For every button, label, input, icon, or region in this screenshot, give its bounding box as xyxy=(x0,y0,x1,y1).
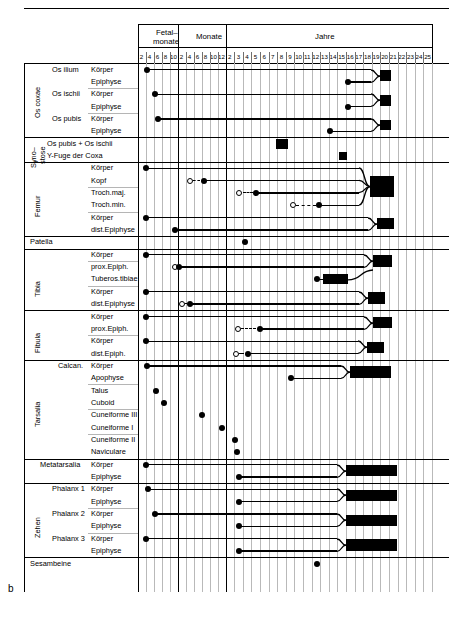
row-part-label: Troch.maj. xyxy=(91,189,126,196)
row-bone-label: Os pubis xyxy=(52,115,81,122)
synostosis-block xyxy=(380,120,390,130)
row-separator xyxy=(138,47,432,48)
grid-line xyxy=(138,24,139,63)
row-part-label: Cuboid xyxy=(91,399,114,406)
growth-line xyxy=(177,229,368,230)
synostosis-block xyxy=(350,366,390,377)
grid-line xyxy=(320,52,321,63)
synostosis-block xyxy=(377,218,394,229)
axis-tick: 14 xyxy=(329,54,338,60)
grid-line xyxy=(346,52,347,63)
growth-line xyxy=(241,501,337,502)
axis-tick: 17 xyxy=(355,54,364,60)
axis-tick: 20 xyxy=(380,54,389,60)
header-group-fetal-months-line1: Fetal– xyxy=(156,29,178,37)
row-bone-label: Phalanx 3 xyxy=(52,535,85,542)
row-part-label: Epiphyse xyxy=(91,498,121,505)
header-group-fetal-months-line2: monate xyxy=(153,38,179,46)
axis-tick: 4 xyxy=(146,54,154,60)
grid-line xyxy=(363,52,364,63)
section-group-label: Syno– xyxy=(30,147,37,168)
row-part-label: Epiphyse xyxy=(91,127,121,134)
axis-tick: 23 xyxy=(406,54,415,60)
convergence-funnel xyxy=(371,117,380,133)
row-bone-label: Phalanx 2 xyxy=(52,510,85,517)
grid-line xyxy=(398,63,399,592)
row-part-label: Körper xyxy=(91,214,113,221)
synostosis-block xyxy=(380,95,390,105)
growth-line xyxy=(157,94,372,95)
synostosis-block xyxy=(373,317,392,328)
variable-period-line xyxy=(243,192,253,193)
convergence-funnel xyxy=(359,166,370,207)
grid-line xyxy=(186,52,187,63)
row-part-label: Körper xyxy=(91,115,113,122)
axis-tick: 24 xyxy=(415,54,424,60)
grid-line xyxy=(329,52,330,63)
synostosis-block xyxy=(346,539,398,550)
grid-line xyxy=(218,52,219,63)
axis-tick: 12 xyxy=(312,54,321,60)
grid-line xyxy=(243,52,244,63)
axis-tick: 6 xyxy=(260,54,269,60)
synostosis-block xyxy=(367,342,384,353)
figure-label: b xyxy=(8,583,14,594)
grid-line xyxy=(294,52,295,63)
grid-line xyxy=(415,52,416,63)
growth-line xyxy=(149,365,342,366)
row-bone-label: Calcan. xyxy=(58,362,83,369)
growth-line xyxy=(148,168,359,169)
growth-line xyxy=(160,118,371,119)
row-separator xyxy=(24,310,449,311)
row-part-label: Körper xyxy=(91,164,113,171)
axis-tick: 5 xyxy=(251,54,260,60)
axis-tick: 2 xyxy=(226,54,235,60)
convergence-funnel xyxy=(359,290,368,306)
grid-line xyxy=(154,52,155,63)
grid-line xyxy=(146,52,147,63)
row-part-label: Talus xyxy=(91,387,108,394)
synostosis-block xyxy=(276,139,288,149)
variable-period-line xyxy=(239,353,244,354)
row-bone-label: Os ilium xyxy=(52,66,79,73)
grid-line xyxy=(372,52,373,63)
synostosis-block xyxy=(339,152,347,160)
row-separator xyxy=(24,63,449,64)
onset-open-marker xyxy=(187,178,193,184)
row-part-label: Körper xyxy=(91,362,113,369)
onset-marker xyxy=(242,239,248,245)
grid-line xyxy=(423,63,424,592)
convergence-funnel xyxy=(337,512,346,528)
onset-open-marker xyxy=(235,326,241,332)
row-bone-label: Os ischii xyxy=(52,90,80,97)
row-part-label: Körper xyxy=(91,535,113,542)
growth-line xyxy=(157,513,337,514)
grid-line xyxy=(406,63,407,592)
row-part-label: Apophyse xyxy=(91,374,124,381)
convergence-funnel xyxy=(371,92,380,108)
axis-tick: 11 xyxy=(303,54,312,60)
growth-line xyxy=(148,341,357,342)
onset-marker xyxy=(153,388,159,394)
grid-line xyxy=(260,52,261,63)
grid-line xyxy=(226,24,227,63)
axis-tick: 18 xyxy=(363,54,372,60)
variable-period-line xyxy=(296,205,316,206)
row-separator xyxy=(138,24,432,25)
axis-tick: 8 xyxy=(202,54,210,60)
convergence-funnel xyxy=(358,339,367,355)
row-separator xyxy=(24,459,449,460)
growth-line xyxy=(148,291,359,292)
row-part-label: Körper xyxy=(91,251,113,258)
section-group-label: Os coxae xyxy=(34,87,41,118)
growth-line xyxy=(206,180,359,181)
row-part-label: prox.Epiph. xyxy=(91,325,128,332)
growth-line xyxy=(149,69,371,70)
row-part-label: dist.Epiphyse xyxy=(91,300,135,307)
grid-line xyxy=(312,52,313,63)
grid-line xyxy=(415,63,416,592)
onset-open-marker xyxy=(290,202,296,208)
row-part-label: Tuberos.tibiae xyxy=(91,275,138,282)
axis-tick: 15 xyxy=(337,54,346,60)
section-group-label: Tarsalia xyxy=(34,402,41,427)
